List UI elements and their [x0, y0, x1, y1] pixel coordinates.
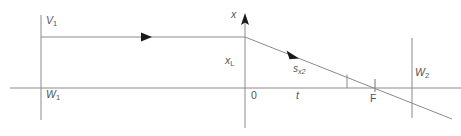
label-w2: W2: [415, 67, 429, 78]
label-w1: W1: [46, 89, 60, 100]
label-x-lower: xL: [225, 55, 234, 66]
refracted-ray-arrowhead-icon: [287, 51, 300, 60]
refracted-ray-line: [245, 37, 452, 119]
diagram-canvas: [0, 0, 461, 136]
incident-ray-arrowhead-icon: [141, 33, 152, 42]
label-x-axis: x: [231, 9, 236, 20]
label-focal-point: F: [370, 93, 376, 104]
label-v1: V1: [46, 15, 57, 26]
label-t: t: [296, 90, 299, 101]
label-origin: 0: [251, 90, 257, 101]
label-s-x2: sx2: [293, 64, 306, 74]
ray-diagram-figure: V1 W1 x xL 0 sx2 t F W2: [0, 0, 461, 136]
